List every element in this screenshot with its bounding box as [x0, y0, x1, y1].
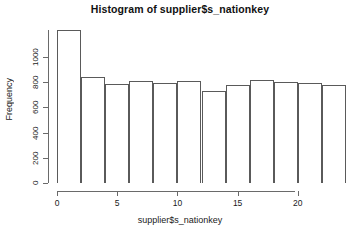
y-axis-tick — [43, 82, 48, 83]
histogram-bar — [177, 81, 201, 183]
x-axis-tick — [117, 191, 118, 196]
y-axis-title: Frequency — [4, 78, 14, 121]
x-axis-tick-label: 20 — [293, 198, 302, 208]
y-axis-tick-label: 1000 — [31, 44, 40, 70]
histogram-bar — [105, 84, 129, 183]
x-axis-tick-label: 15 — [233, 198, 242, 208]
histogram-bar — [298, 83, 322, 183]
x-axis-tick — [298, 191, 299, 196]
histogram-bar — [274, 82, 298, 183]
y-axis-tick — [43, 107, 48, 108]
histogram-bar — [81, 77, 105, 183]
y-axis-tick-label: 600 — [31, 94, 40, 120]
plot-area — [57, 28, 346, 183]
x-axis-title: supplier$s_nationkey — [0, 215, 360, 225]
y-axis-tick-label: 0 — [31, 170, 40, 196]
x-axis-tick-label: 10 — [173, 198, 182, 208]
y-axis-tick — [43, 133, 48, 134]
y-axis-line — [48, 30, 49, 183]
x-axis-tick — [177, 191, 178, 196]
histogram-plot: Histogram of supplier$s_nationkey Freque… — [0, 0, 360, 237]
y-axis-tick-label: 200 — [31, 145, 40, 171]
x-axis-tick-label: 5 — [115, 198, 120, 208]
histogram-bar — [129, 81, 153, 183]
y-axis-tick — [43, 183, 48, 184]
x-axis-tick — [238, 191, 239, 196]
histogram-bar — [57, 30, 81, 183]
histogram-bar — [226, 85, 250, 183]
histogram-bar — [250, 80, 274, 183]
x-axis-tick-label: 0 — [55, 198, 60, 208]
histogram-bar — [322, 85, 346, 183]
y-axis-tick — [43, 57, 48, 58]
y-axis-tick-label: 800 — [31, 69, 40, 95]
x-axis-tick — [57, 191, 58, 196]
histogram-bar — [202, 91, 226, 183]
chart-title: Histogram of supplier$s_nationkey — [0, 3, 360, 15]
y-axis-tick — [43, 158, 48, 159]
y-axis-tick-label: 400 — [31, 120, 40, 146]
histogram-bar — [153, 83, 177, 183]
